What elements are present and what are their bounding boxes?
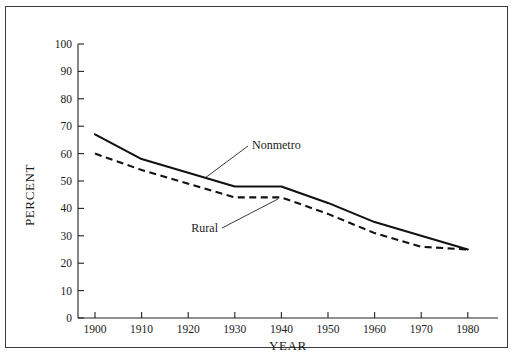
x-tick-label-1900: 1900 <box>84 323 107 335</box>
x-tick-label-1920: 1920 <box>177 323 200 335</box>
series-label-nonmetro: Nonmetro <box>252 138 301 152</box>
y-tick-label-80: 80 <box>61 93 73 105</box>
y-axis-ticks <box>78 44 84 318</box>
figure-root: ........................................… <box>0 0 515 354</box>
y-tick-label-10: 10 <box>61 285 73 297</box>
line-chart: 100 90 80 70 60 50 40 30 20 10 0 PERCENT <box>0 0 515 354</box>
y-tick-label-30: 30 <box>61 230 73 242</box>
y-tick-label-100: 100 <box>55 38 73 50</box>
y-tick-label-0: 0 <box>66 312 72 324</box>
x-tick-label-1930: 1930 <box>223 323 246 335</box>
x-tick-label-1910: 1910 <box>130 323 153 335</box>
x-tick-label-1970: 1970 <box>410 323 433 335</box>
y-axis: 100 90 80 70 60 50 40 30 20 10 0 PERCENT <box>22 38 84 324</box>
annotation-nonmetro: Nonmetro <box>205 138 301 178</box>
y-tick-label-90: 90 <box>61 65 73 77</box>
y-tick-label-60: 60 <box>61 148 73 160</box>
y-tick-label-40: 40 <box>61 202 73 214</box>
y-tick-label-20: 20 <box>61 257 73 269</box>
x-tick-label-1960: 1960 <box>363 323 386 335</box>
y-axis-tick-labels: 100 90 80 70 60 50 40 30 20 10 0 <box>55 38 73 324</box>
x-axis: 1900 1910 1920 1930 1940 1950 1960 1970 … <box>78 312 498 353</box>
leader-line-rural <box>222 199 278 228</box>
x-tick-label-1980: 1980 <box>456 323 479 335</box>
annotation-rural: Rural <box>191 199 278 235</box>
leader-line-nonmetro <box>205 146 248 178</box>
y-tick-label-50: 50 <box>61 175 73 187</box>
y-tick-label-70: 70 <box>61 120 73 132</box>
y-axis-title: PERCENT <box>22 164 37 226</box>
x-tick-label-1950: 1950 <box>317 323 340 335</box>
series-line-rural <box>95 154 468 250</box>
x-axis-ticks <box>95 312 468 318</box>
series-label-rural: Rural <box>191 221 218 235</box>
x-axis-tick-labels: 1900 1910 1920 1930 1940 1950 1960 1970 … <box>84 323 480 335</box>
x-tick-label-1940: 1940 <box>270 323 293 335</box>
x-axis-title: YEAR <box>269 338 307 353</box>
